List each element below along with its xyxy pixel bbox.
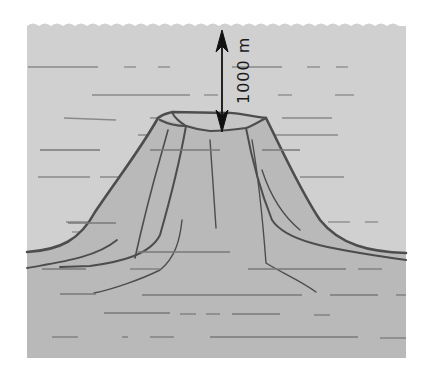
diagram-canvas	[0, 0, 432, 375]
volcano-diagram: 1000 m	[0, 0, 432, 375]
depth-label: 1000 m	[234, 37, 253, 104]
